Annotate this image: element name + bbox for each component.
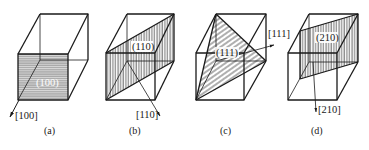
plane-label: (111) [216,47,238,59]
caption-d: (d) [311,125,323,137]
plane-110 [106,14,174,100]
plane-label: (100) [36,77,59,89]
direction-label: [110] [136,109,158,120]
panel-b: (110) [110] (b) [106,14,174,137]
direction-label: [210] [318,104,341,115]
panel-a: (100) [100] (a) [10,14,88,137]
caption-a: (a) [44,125,55,137]
caption-c: (c) [220,125,231,137]
crystal-planes-figure: (100) [100] (a) (110) [110] (b) [0,0,369,150]
direction-label: [100] [15,110,38,121]
direction-label: [111] [268,28,290,39]
plane-label: (210) [316,32,339,44]
plane-label: (110) [132,41,155,53]
panel-c: (111) [111] (c) [196,14,290,137]
caption-b: (b) [129,125,141,137]
panel-d: (210) [210] (d) [288,14,358,137]
